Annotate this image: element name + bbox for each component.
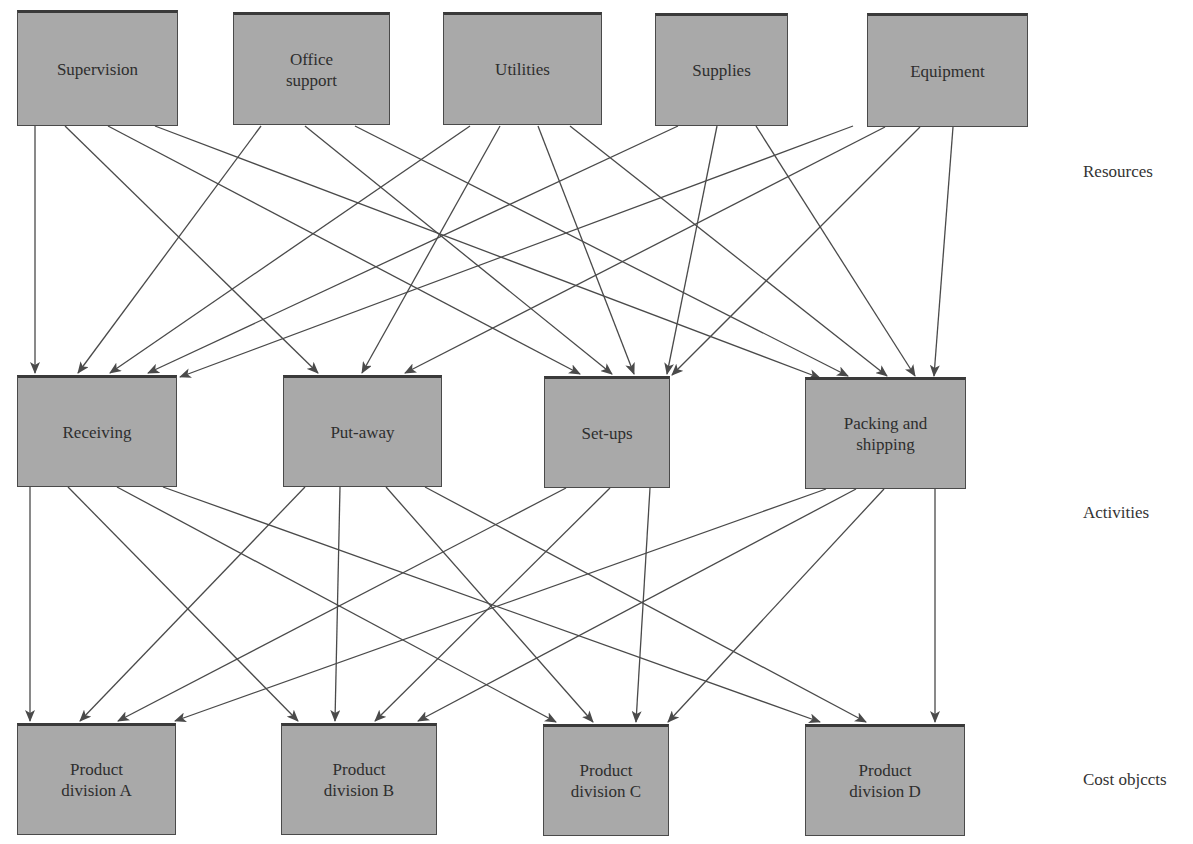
arrow-supervision-to-setups — [108, 126, 580, 374]
cost-object-box-divB: Product division B — [281, 723, 437, 835]
cost-object-label: Product division C — [571, 760, 641, 802]
activity-label: Set-ups — [582, 423, 633, 444]
abc-cost-flow-diagram: SupervisionOffice supportUtilitiesSuppli… — [0, 0, 1193, 844]
arrow-equipment-to-receiving — [180, 126, 853, 377]
arrow-equipment-to-putaway — [405, 127, 885, 373]
arrow-packing-to-divA — [175, 489, 826, 721]
arrow-putaway-to-divA — [80, 487, 305, 721]
cost-object-label: Product division D — [849, 760, 920, 802]
activity-label: Put-away — [330, 422, 394, 443]
cost-object-box-divD: Product division D — [805, 724, 965, 836]
arrow-utilities-to-setups — [538, 126, 634, 374]
resource-box-equipment: Equipment — [867, 13, 1028, 127]
arrow-office-to-packing — [355, 126, 848, 376]
resource-box-supervision: Supervision — [17, 10, 178, 126]
activity-label: Receiving — [63, 422, 132, 443]
resource-label: Supervision — [57, 59, 138, 80]
activity-box-packing: Packing and shipping — [805, 377, 966, 489]
resource-label: Supplies — [692, 60, 751, 81]
arrow-supplies-to-packing — [756, 126, 915, 376]
row-label-activities: Activities — [1083, 503, 1149, 523]
resource-label: Equipment — [910, 61, 985, 82]
row-label-resources: Resources — [1083, 162, 1153, 182]
activity-box-setups: Set-ups — [544, 376, 670, 488]
resource-box-office: Office support — [233, 12, 390, 125]
arrow-equipment-to-packing — [934, 127, 953, 376]
resource-box-supplies: Supplies — [655, 13, 788, 126]
cost-object-label: Product division A — [61, 759, 131, 801]
arrow-supervision-to-putaway — [65, 126, 318, 373]
resource-box-utilities: Utilities — [443, 12, 602, 125]
cost-object-box-divA: Product division A — [17, 723, 176, 835]
arrow-office-to-receiving — [78, 126, 261, 373]
activity-box-receiving: Receiving — [17, 375, 177, 487]
arrow-packing-to-divC — [668, 489, 884, 722]
activity-box-putaway: Put-away — [283, 375, 442, 487]
resource-label: Utilities — [495, 59, 550, 80]
arrow-packing-to-divB — [418, 489, 856, 721]
activity-label: Packing and shipping — [844, 413, 928, 455]
arrow-utilities-to-packing — [570, 126, 887, 376]
cost-object-box-divC: Product division C — [543, 724, 669, 836]
cost-object-label: Product division B — [324, 759, 394, 801]
resource-label: Office support — [286, 49, 337, 91]
arrow-office-to-setups — [305, 126, 612, 374]
row-label-cost-objects: Cost objccts — [1083, 770, 1167, 790]
arrow-supervision-to-packing — [155, 126, 820, 378]
